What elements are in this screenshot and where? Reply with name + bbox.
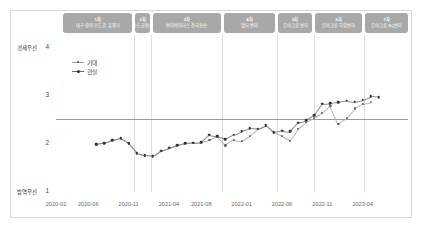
phase-divider-6 [364, 35, 365, 192]
legend-item-1: 기대 [71, 58, 97, 67]
y-tick-3: 3 [39, 91, 49, 98]
data-point [240, 130, 243, 133]
phase-label-1: 1차대구·경북·수도권 유행기 [63, 13, 132, 33]
data-point [200, 141, 203, 144]
phase-label-2: 2차수도권확산 [135, 13, 150, 33]
data-point [192, 141, 195, 144]
data-point [313, 114, 316, 117]
data-point [337, 101, 340, 104]
y-axis-top-label: 경제우선 [1, 44, 37, 52]
data-point [168, 147, 171, 150]
x-tick-2021-04: 2021-04 [159, 201, 180, 207]
data-point [361, 99, 364, 102]
data-point [265, 124, 268, 127]
phase-description: 오미크론 하위변이 [322, 23, 355, 29]
reference-line-2-5 [56, 119, 408, 120]
data-point [111, 139, 114, 142]
x-tick-2023-04: 2023-04 [352, 201, 373, 207]
data-point [297, 128, 299, 130]
data-point [208, 139, 210, 141]
legend-label: 기대 [87, 58, 97, 67]
data-point [103, 142, 106, 145]
data-point [232, 134, 235, 137]
phase-description: 오미크론 BQ변이 [371, 23, 402, 29]
phase-description: 수도권확산 [135, 23, 150, 29]
series-line-segment [330, 106, 339, 124]
data-point [224, 138, 227, 141]
phase-description: 변이바이러스 전국확산 [166, 23, 207, 29]
data-point [337, 123, 339, 125]
legend-marker-icon [71, 62, 85, 63]
phase-label-5: 5차오미크론 변이 [278, 13, 312, 33]
data-point [353, 107, 355, 109]
data-point [184, 142, 187, 145]
phase-divider-2 [151, 35, 152, 192]
data-point [329, 104, 331, 106]
data-point [273, 131, 276, 134]
series-line-segment [225, 140, 233, 146]
data-point [135, 152, 138, 155]
phase-description: 델타 변이 [241, 23, 258, 29]
x-tick-2022-11: 2022-11 [312, 201, 332, 207]
data-point [321, 112, 323, 114]
phase-divider-3 [222, 35, 223, 192]
series-line-segment [241, 136, 249, 142]
phase-description: 대구·경북·수도권 유행기 [76, 23, 120, 29]
data-point [143, 154, 146, 157]
data-point [369, 95, 372, 98]
data-point [321, 102, 324, 105]
legend-marker-icon [71, 71, 85, 72]
chart-card: 1차대구·경북·수도권 유행기2차수도권확산3차변이바이러스 전국확산4차델타 … [10, 10, 412, 218]
series-line-segment [346, 109, 355, 119]
phase-description: 오미크론 변이 [283, 23, 308, 29]
phase-divider-4 [277, 35, 278, 192]
y-tick-2: 2 [39, 139, 49, 146]
y-axis-bottom-label: 방역우선 [1, 188, 37, 196]
data-point [127, 142, 130, 145]
phase-divider-1 [134, 35, 135, 192]
x-tick-2021-08: 2021-08 [191, 201, 212, 207]
data-point [256, 127, 259, 130]
x-tick-2022-06: 2022-06 [272, 201, 293, 207]
legend-item-2: 현실 [71, 67, 97, 76]
x-tick-2020-11: 2020-11 [119, 201, 139, 207]
data-point [241, 140, 243, 142]
data-point [248, 127, 251, 130]
chart-plot-area: 1차대구·경북·수도권 유행기2차수도권확산3차변이바이러스 전국확산4차델타 … [11, 11, 413, 219]
phase-label-6: 6차오미크론 하위변이 [315, 13, 362, 33]
legend-label: 현실 [87, 67, 97, 76]
phase-label-3: 3차변이바이러스 전국확산 [153, 13, 221, 33]
y-tick-4: 4 [39, 43, 49, 50]
x-tick-2020-02: 2020-02 [46, 201, 67, 207]
data-point [297, 122, 300, 125]
data-point [305, 119, 308, 122]
data-point [224, 144, 226, 146]
phase-label-4: 4차델타 변이 [224, 13, 276, 33]
data-point [377, 96, 380, 99]
data-point [370, 101, 372, 103]
y-tick-1: 1 [39, 187, 49, 194]
data-point [329, 102, 332, 105]
data-point [119, 137, 122, 140]
data-point [249, 135, 251, 137]
data-point [345, 99, 348, 102]
data-point [152, 155, 155, 158]
data-point [216, 135, 219, 138]
phase-label-7: 7차오미크론 BQ변이 [365, 13, 408, 33]
x-tick-2022-01: 2022-01 [231, 201, 252, 207]
data-point [281, 129, 284, 132]
data-point [208, 134, 211, 137]
data-point [160, 149, 163, 152]
data-point [289, 140, 291, 142]
x-tick-2020-06: 2020-06 [78, 201, 99, 207]
chart-legend: 기대현실 [71, 58, 97, 76]
data-point [353, 100, 356, 103]
data-point [289, 130, 292, 133]
data-point [176, 144, 179, 147]
data-point [95, 143, 98, 146]
